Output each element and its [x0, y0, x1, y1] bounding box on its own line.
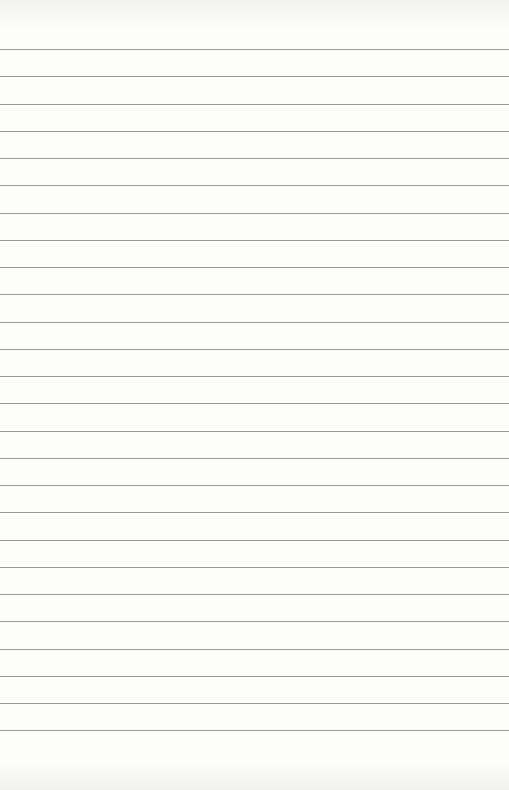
ruled-line [0, 185, 509, 186]
ruled-line [0, 431, 509, 432]
ruled-line [0, 540, 509, 541]
ruled-line [0, 76, 509, 77]
ruled-line [0, 676, 509, 677]
ruled-line [0, 649, 509, 650]
lined-paper-sheet [0, 0, 509, 790]
ruled-line [0, 322, 509, 323]
ruled-line [0, 294, 509, 295]
ruled-line [0, 703, 509, 704]
ruled-line [0, 158, 509, 159]
ruled-line [0, 730, 509, 731]
ruled-line [0, 376, 509, 377]
ruled-line [0, 131, 509, 132]
ruled-line [0, 485, 509, 486]
ruled-line [0, 49, 509, 50]
ruled-line [0, 567, 509, 568]
ruled-line [0, 240, 509, 241]
ruled-line [0, 458, 509, 459]
ruled-line [0, 104, 509, 105]
ruled-line [0, 267, 509, 268]
ruled-line [0, 621, 509, 622]
ruled-line [0, 512, 509, 513]
ruled-line [0, 213, 509, 214]
ruled-line [0, 349, 509, 350]
ruled-line [0, 403, 509, 404]
ruled-line [0, 594, 509, 595]
